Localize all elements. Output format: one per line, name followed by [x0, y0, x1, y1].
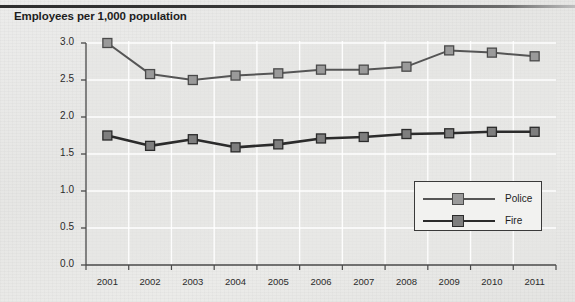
x-axis-tick-label: 2010 — [470, 276, 514, 287]
x-axis-tick-label: 2006 — [299, 276, 343, 287]
data-point — [317, 65, 326, 74]
x-axis-tick-label: 2002 — [128, 276, 172, 287]
data-point — [274, 140, 283, 149]
data-point — [359, 132, 368, 141]
legend-marker-swatch — [452, 215, 464, 227]
data-point — [359, 65, 368, 74]
data-point — [317, 134, 326, 143]
line-chart — [0, 0, 575, 302]
x-axis-tick-label: 2011 — [513, 276, 557, 287]
data-point — [487, 127, 496, 136]
data-point — [530, 127, 539, 136]
data-point — [445, 129, 454, 138]
y-axis-tick-label: 2.5 — [44, 73, 74, 84]
x-axis-tick-label: 2007 — [342, 276, 386, 287]
y-axis-tick-label: 0.5 — [44, 221, 74, 232]
x-axis-tick-label: 2001 — [85, 276, 129, 287]
data-point — [188, 76, 197, 85]
x-axis-tick-label: 2005 — [256, 276, 300, 287]
data-point — [274, 69, 283, 78]
data-point — [231, 71, 240, 80]
data-point — [103, 131, 112, 140]
x-axis-tick-label: 2004 — [214, 276, 258, 287]
y-axis-tick-label: 2.0 — [44, 110, 74, 121]
legend-label: Police — [505, 192, 532, 206]
data-point — [402, 130, 411, 139]
legend-marker-swatch — [452, 193, 464, 205]
data-point — [146, 70, 155, 79]
y-axis-tick-label: 1.5 — [44, 147, 74, 158]
y-axis-tick-label: 1.0 — [44, 184, 74, 195]
data-point — [103, 39, 112, 48]
legend-item-police: Police — [423, 192, 535, 206]
chart-legend: PoliceFire — [414, 181, 542, 231]
data-point — [445, 46, 454, 55]
y-axis-tick-label: 3.0 — [44, 36, 74, 47]
x-axis-tick-label: 2009 — [427, 276, 471, 287]
y-axis-tick-label: 0.0 — [44, 258, 74, 269]
data-point — [146, 141, 155, 150]
data-point — [530, 52, 539, 61]
x-axis-tick-label: 2008 — [384, 276, 428, 287]
data-point — [231, 143, 240, 152]
data-point — [188, 135, 197, 144]
data-point — [402, 62, 411, 71]
legend-item-fire: Fire — [423, 214, 535, 228]
data-point — [487, 48, 496, 57]
x-axis-tick-label: 2003 — [171, 276, 215, 287]
legend-label: Fire — [505, 214, 522, 228]
